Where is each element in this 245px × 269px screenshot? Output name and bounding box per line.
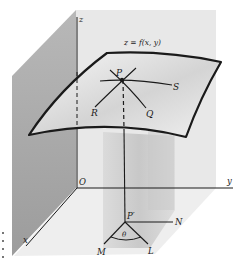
label-p: P [115, 68, 123, 78]
label-r: R [90, 108, 98, 118]
label-y-axis: y [226, 176, 232, 186]
label-n: N [174, 217, 183, 227]
label-z-axis: z [78, 15, 84, 24]
label-p-prime: P′ [126, 211, 135, 221]
page-edge-marks [0, 232, 6, 264]
label-l: L [147, 246, 154, 256]
label-x-axis: x [23, 235, 28, 245]
label-surface-equation: z = f(x, y) [123, 38, 161, 47]
label-q: Q [146, 109, 154, 119]
point-p [120, 78, 124, 82]
surface-diagram: z z = f(x, y) P S R Q O y x P′ N θ M L [0, 0, 245, 269]
label-origin: O [79, 177, 86, 187]
label-s: S [173, 82, 179, 92]
label-m: M [96, 247, 106, 257]
